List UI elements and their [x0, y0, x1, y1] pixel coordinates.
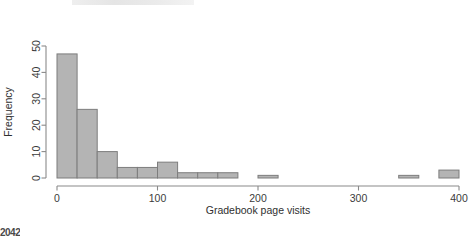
scan-artifact-top [72, 0, 194, 5]
histogram-bar [218, 173, 238, 178]
histogram-plot: 0100200300400 Gradebook page visits 0102… [0, 0, 475, 239]
x-tick-label: 400 [450, 192, 468, 204]
x-tick-label: 200 [249, 192, 267, 204]
x-tick-label: 100 [149, 192, 167, 204]
histogram-bar [439, 170, 459, 178]
y-tick-label: 30 [30, 93, 42, 105]
y-tick-label: 50 [30, 40, 42, 52]
histogram-bar [399, 175, 419, 178]
y-tick-label: 40 [30, 66, 42, 78]
y-tick-label: 20 [30, 119, 42, 131]
x-tick-label: 0 [54, 192, 60, 204]
histogram-bar [117, 167, 137, 178]
y-tick-label: 10 [30, 146, 42, 158]
scan-artifact-bottom-text: 2042 [0, 228, 20, 238]
histogram-bar [77, 109, 97, 178]
histogram-bar [258, 175, 278, 178]
histogram-bar [158, 162, 178, 178]
y-tick-label: 0 [30, 175, 42, 181]
histogram-bar [198, 173, 218, 178]
histogram-bar [137, 167, 157, 178]
x-axis: 0100200300400 Gradebook page visits [54, 186, 468, 216]
y-axis-title: Frequency [2, 86, 14, 136]
histogram-bar [97, 152, 117, 178]
histogram-bar [57, 54, 77, 178]
y-tick-group: 01020304050 [30, 40, 46, 181]
x-axis-title: Gradebook page visits [206, 204, 310, 216]
x-tick-label: 300 [350, 192, 368, 204]
histogram-bar [178, 173, 198, 178]
histogram-figure: 0100200300400 Gradebook page visits 0102… [0, 0, 475, 239]
y-axis: 01020304050 Frequency [2, 40, 46, 181]
bars-group [57, 54, 459, 178]
x-tick-group: 0100200300400 [54, 186, 468, 204]
